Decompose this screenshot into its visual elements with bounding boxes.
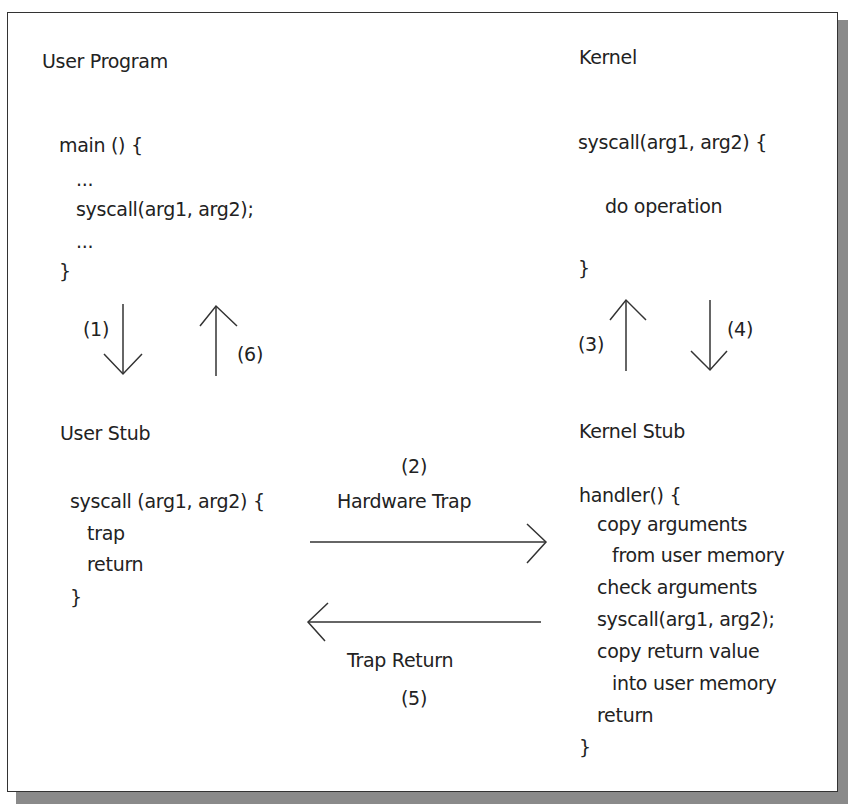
arrow-right-icon (310, 524, 546, 563)
arrow-up-icon (200, 306, 237, 376)
arrow-down-icon (104, 304, 142, 374)
arrow-up-icon (610, 300, 646, 371)
arrow-left-icon (308, 603, 541, 641)
flow-arrows (0, 0, 848, 804)
arrow-down-icon (691, 300, 727, 370)
